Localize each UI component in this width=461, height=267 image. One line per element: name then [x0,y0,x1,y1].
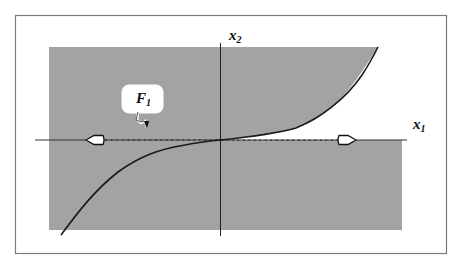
callout-f1-label: F1 [136,91,151,108]
callout-label-base: F [136,90,146,106]
x1-axis-label: x1 [413,117,426,134]
x2-label-sub: 2 [237,34,242,45]
x2-axis-label: x2 [229,28,242,45]
diagram-figure: x2 x1 F1 [0,0,461,267]
x1-label-base: x [413,116,421,132]
x1-label-sub: 1 [421,123,426,134]
callout-label-sub: 1 [146,97,151,108]
x2-label-base: x [229,27,237,43]
